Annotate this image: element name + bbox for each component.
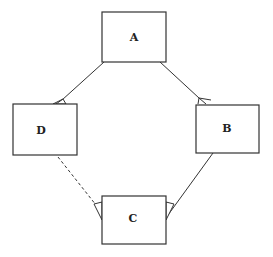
arrowhead-c-right-icon: [166, 202, 174, 220]
arrowhead-c-left-icon: [94, 202, 102, 220]
edge-b-c: [166, 153, 213, 220]
edge-a-b: [160, 62, 211, 104]
node-d-label: D: [36, 124, 46, 137]
node-a-label: A: [129, 31, 139, 44]
node-c[interactable]: C: [102, 196, 166, 244]
edge-a-d: [53, 62, 104, 104]
edge-d-c: [58, 157, 102, 220]
arrowhead-b-icon: [198, 98, 211, 104]
node-a[interactable]: A: [102, 12, 166, 62]
node-b-label: B: [222, 122, 231, 135]
diagram-canvas: A D B C: [0, 0, 273, 257]
node-c-label: C: [129, 212, 138, 225]
node-d[interactable]: D: [13, 104, 77, 155]
node-b[interactable]: B: [196, 105, 259, 153]
